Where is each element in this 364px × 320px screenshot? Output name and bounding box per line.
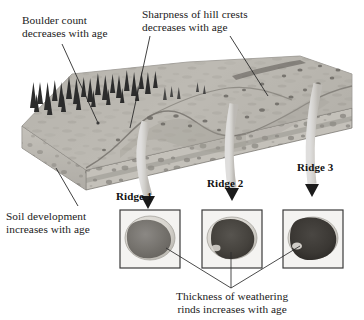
specimen-box-ridge-1 xyxy=(120,210,180,268)
annotation-crest-sharpness-line2: decreases with age xyxy=(142,21,228,33)
annotation-crest-sharpness: Sharpness of hill crestsdecreases with a… xyxy=(142,8,248,34)
annotation-weathering-rind-line2: rinds increases with age xyxy=(177,303,286,315)
specimen-box-ridge-2 xyxy=(202,210,262,268)
annotation-boulder-count-line2: decreases with age xyxy=(22,27,108,39)
arrowhead-ridge-3 xyxy=(305,184,319,197)
annotation-crest-sharpness-line1: Sharpness of hill crests xyxy=(142,8,248,20)
annotation-soil-development-line2: increases with age xyxy=(6,223,90,235)
arrow-band-ridge-2-shade xyxy=(229,104,234,188)
arrowhead-ridge-2 xyxy=(225,188,239,201)
specimen-box-ridge-3 xyxy=(283,210,343,268)
annotation-boulder-count-line1: Boulder count xyxy=(22,14,87,26)
annotation-boulder-count: Boulder countdecreases with age xyxy=(22,14,108,40)
ridge-label-1: Ridge 1 xyxy=(116,190,152,202)
annotation-weathering-rind: Thickness of weatheringrinds increases w… xyxy=(176,290,288,316)
ridge-label-2: Ridge 2 xyxy=(207,177,243,189)
specimen-3-core xyxy=(290,218,336,261)
annotation-soil-development: Soil developmentincreases with age xyxy=(6,210,90,236)
leader-dot-boulder xyxy=(96,121,99,124)
ridge-label-3: Ridge 3 xyxy=(297,161,333,173)
specimen-3-rind-patch xyxy=(292,242,302,249)
weathering-chronosequence-figure xyxy=(0,0,364,320)
specimen-2-rind-patch xyxy=(212,245,221,251)
annotation-soil-development-line1: Soil development xyxy=(6,210,86,222)
annotation-weathering-rind-line1: Thickness of weathering xyxy=(176,290,288,302)
